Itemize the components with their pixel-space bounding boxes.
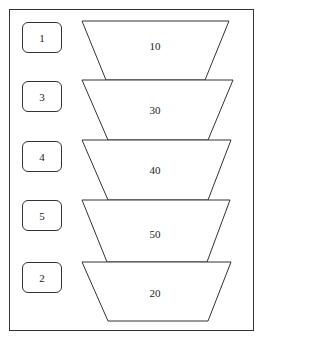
stage-value: 10: [125, 40, 185, 52]
stage-value: 40: [125, 164, 185, 176]
stage-value: 20: [125, 287, 185, 299]
stage-value: 30: [125, 104, 185, 116]
stage-value: 50: [125, 228, 185, 240]
